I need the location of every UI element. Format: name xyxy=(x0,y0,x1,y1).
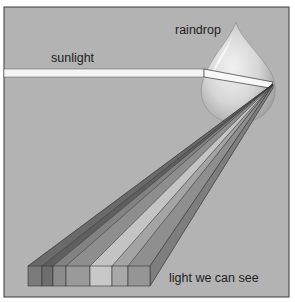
spectrum-band xyxy=(53,266,66,286)
rainbow-diagram xyxy=(0,0,295,302)
spectrum-band xyxy=(112,266,128,286)
spectrum-band xyxy=(128,266,150,286)
spectrum-band xyxy=(90,266,112,286)
spectrum-band xyxy=(42,266,53,286)
sunlight-label: sunlight xyxy=(51,52,94,65)
spectrum-band xyxy=(66,266,90,286)
sunlight-beam xyxy=(4,69,204,77)
visible-light-label: light we can see xyxy=(169,272,259,285)
spectrum-band xyxy=(28,266,42,286)
raindrop-label: raindrop xyxy=(175,24,221,37)
visible-spectrum-prism xyxy=(28,266,150,286)
